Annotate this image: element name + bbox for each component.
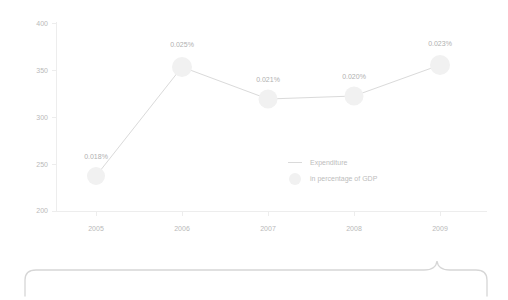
data-point-marker[interactable] [87,167,105,185]
brace-icon [25,261,487,296]
legend-item-label: Expenditure [310,159,347,167]
data-point-label: 0.023% [428,40,452,47]
x-axis-labels: 2005 2006 2007 2008 2009 [88,225,448,232]
data-point-label: 0.018% [84,153,108,160]
data-point-marker[interactable] [345,87,364,106]
x-tick-label: 2006 [174,225,190,232]
legend-item-percentage-of-gdp[interactable]: in percentage of GDP [289,173,378,185]
data-point-marker[interactable] [259,90,278,109]
line-chart: 400 350 300 250 200 2005 2006 2007 2008 … [0,0,508,300]
legend-item-expenditure[interactable]: Expenditure [288,159,347,167]
x-tick-label: 2005 [88,225,104,232]
chart-container: 400 350 300 250 200 2005 2006 2007 2008 … [0,0,508,300]
data-point-label: 0.020% [342,73,366,80]
data-point-label: 0.021% [256,76,280,83]
x-tick-label: 2009 [432,225,448,232]
x-tick-marks [97,212,441,217]
legend-circle-icon [289,173,301,185]
x-tick-label: 2008 [346,225,362,232]
y-tick-label: 200 [36,207,48,214]
data-point-label: 0.025% [170,41,194,48]
y-tick-marks [52,24,57,212]
data-point-marker[interactable] [430,55,450,75]
x-tick-label: 2007 [260,225,276,232]
axis-group [57,22,488,212]
data-point-markers [87,55,450,185]
grouping-brace [25,261,487,296]
y-tick-label: 250 [36,161,48,168]
y-tick-label: 400 [36,20,48,27]
legend-item-label: in percentage of GDP [310,175,378,183]
y-tick-label: 350 [36,67,48,74]
chart-legend: Expenditure in percentage of GDP [288,159,378,185]
y-axis-labels: 400 350 300 250 200 [36,20,48,214]
data-point-marker[interactable] [172,57,192,77]
y-tick-label: 300 [36,114,48,121]
